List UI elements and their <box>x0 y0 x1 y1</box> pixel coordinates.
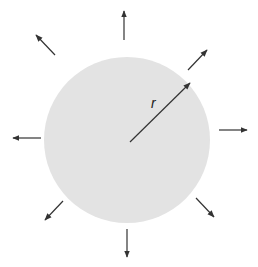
arrow-down-left-icon <box>45 201 63 220</box>
arrow-down-right-icon <box>196 198 214 217</box>
sphere-circle <box>44 57 210 223</box>
arrow-up-right-icon <box>188 50 207 70</box>
expanding-sphere-diagram: r <box>0 0 258 267</box>
arrow-up-left-icon <box>36 35 55 55</box>
